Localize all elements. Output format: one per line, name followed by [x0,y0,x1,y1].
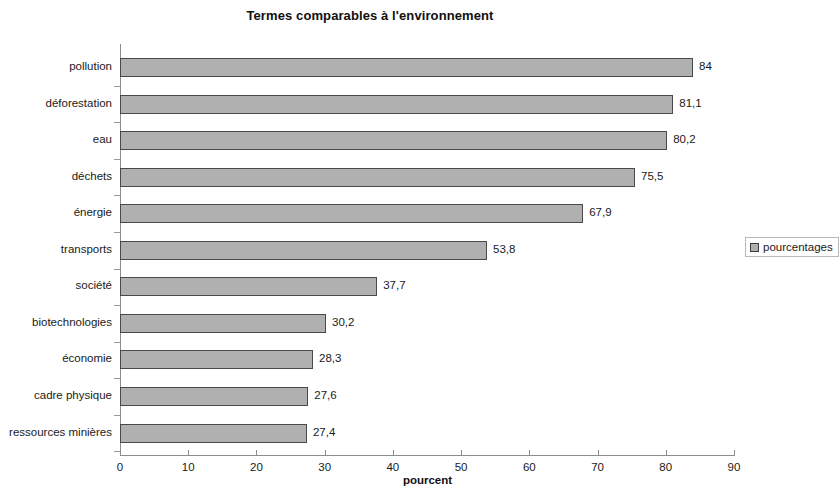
y-axis-tick [114,415,120,416]
category-label: ressources minières [0,426,112,438]
category-label: déchets [0,170,112,182]
bar-value-label: 84 [699,60,712,72]
category-label: eau [0,133,112,145]
x-axis-tick [256,450,257,456]
bar-value-label: 75,5 [641,170,663,182]
x-axis-tick [325,450,326,456]
category-label: énergie [0,206,112,218]
x-axis-tick-label: 70 [578,461,618,473]
bar-value-label: 53,8 [493,243,515,255]
y-axis-tick [114,122,120,123]
y-axis-tick [114,342,120,343]
bar-value-label: 27,6 [314,389,336,401]
bar [120,350,313,369]
y-axis-tick [114,232,120,233]
x-axis-tick-label: 40 [373,461,413,473]
bar [120,387,308,406]
bar-value-label: 37,7 [383,279,405,291]
bar [120,168,635,187]
bar-value-label: 30,2 [332,316,354,328]
bar-value-label: 67,9 [589,206,611,218]
x-axis-tick [598,450,599,456]
x-axis-tick [529,450,530,456]
x-axis-title: pourcent [120,474,735,486]
chart-title: Termes comparables à l'environnement [0,8,740,23]
x-axis-tick-label: 20 [236,461,276,473]
legend-swatch-pourcentages [750,243,759,252]
x-axis-tick-label: 0 [100,461,140,473]
x-axis-tick-label: 10 [168,461,208,473]
x-axis-tick-label: 30 [305,461,345,473]
x-axis-tick-label: 80 [646,461,686,473]
category-label: transports [0,243,112,255]
bar-value-label: 81,1 [679,97,701,109]
category-label: économie [0,352,112,364]
legend-label-pourcentages: pourcentages [763,241,833,253]
bar [120,58,693,77]
x-axis-tick [393,450,394,456]
bar-value-label: 80,2 [673,133,695,145]
bar [120,95,673,114]
x-axis-tick-label: 50 [441,461,481,473]
chart-legend: pourcentages [745,237,839,257]
x-axis-tick [734,450,735,456]
y-axis-tick [114,195,120,196]
x-axis-tick-label: 90 [714,461,754,473]
bar [120,314,326,333]
x-axis-tick-label: 60 [509,461,549,473]
x-axis-line [120,455,735,456]
bar-value-label: 27,4 [313,426,335,438]
y-axis-tick [114,86,120,87]
x-axis-tick [120,450,121,456]
y-axis-tick [114,159,120,160]
bar-value-label: 28,3 [319,352,341,364]
x-axis-tick [461,450,462,456]
x-axis-tick [188,450,189,456]
bar [120,204,583,223]
bar [120,277,377,296]
bar [120,241,487,260]
x-axis-tick [666,450,667,456]
category-label: société [0,279,112,291]
category-label: pollution [0,60,112,72]
category-label: cadre physique [0,389,112,401]
category-label: biotechnologies [0,316,112,328]
bar [120,131,667,150]
y-axis-tick [114,269,120,270]
y-axis-tick [114,378,120,379]
y-axis-tick [114,305,120,306]
category-label: déforestation [0,97,112,109]
bar [120,424,307,443]
